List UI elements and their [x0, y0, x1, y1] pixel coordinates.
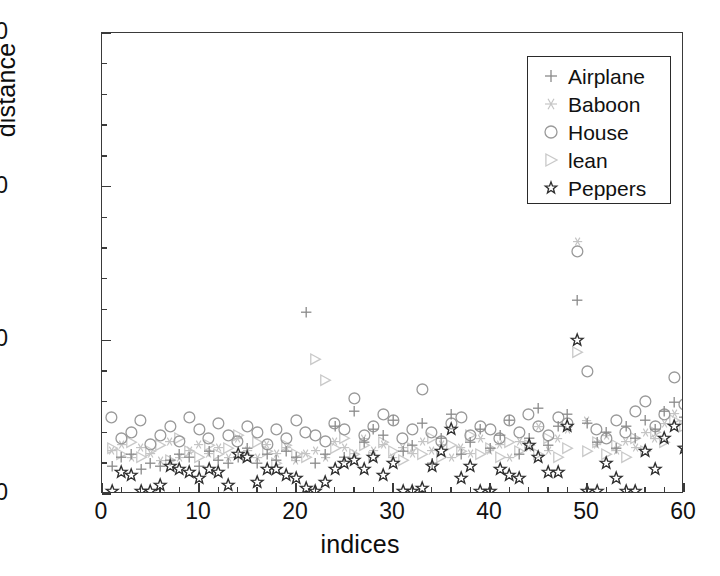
data-point	[569, 332, 585, 348]
data-point	[550, 464, 566, 480]
axis-tick	[102, 94, 107, 95]
axis-tick	[102, 278, 107, 279]
axis-tick	[102, 155, 107, 156]
axis-tick	[547, 487, 548, 492]
legend-box: AirplaneBaboonHouseleanPeppers	[527, 56, 671, 204]
star-marker-icon	[534, 175, 568, 201]
data-point	[637, 443, 653, 459]
data-point	[627, 483, 643, 492]
axis-tick	[664, 487, 665, 492]
axis-tick	[334, 487, 335, 492]
axis-tick	[102, 432, 107, 433]
data-point	[123, 467, 139, 483]
plus-marker-icon	[534, 63, 568, 89]
axis-tick	[489, 483, 491, 492]
legend-item-airplane[interactable]: Airplane	[528, 62, 670, 90]
legend-item-baboon[interactable]: Baboon	[528, 90, 670, 118]
axis-tick	[431, 487, 432, 492]
data-point	[433, 443, 449, 459]
axis-tick	[276, 487, 277, 492]
data-point	[220, 477, 236, 492]
x-tick-label: 60	[623, 500, 720, 523]
circle-marker-icon	[534, 119, 568, 145]
legend-item-label: Baboon	[568, 94, 640, 115]
axis-tick	[295, 483, 297, 492]
axis-tick	[121, 487, 122, 492]
axis-tick	[140, 487, 141, 492]
axis-tick	[353, 487, 354, 492]
legend-item-label: Peppers	[568, 178, 646, 199]
axis-tick	[101, 483, 103, 492]
axis-tick	[625, 487, 626, 492]
x-axis-title: indices	[0, 530, 720, 559]
data-point	[666, 418, 682, 434]
axis-tick	[102, 309, 107, 310]
legend-item-label: Airplane	[568, 66, 645, 87]
axis-tick	[315, 487, 316, 492]
data-point	[530, 449, 546, 465]
triangle-right-marker-icon	[534, 147, 568, 173]
y-tick-label: 0	[0, 481, 8, 504]
axis-tick	[102, 124, 107, 125]
data-point	[559, 418, 575, 434]
y-tick-label: 100	[0, 174, 8, 197]
data-point	[443, 421, 459, 437]
data-point	[598, 455, 614, 471]
data-point	[385, 455, 401, 471]
axis-tick	[256, 487, 257, 492]
scatter-plot-figure: distance indices 0501001500102030405060 …	[0, 0, 720, 576]
axis-tick	[470, 487, 471, 492]
axis-tick	[237, 487, 238, 492]
data-point	[365, 449, 381, 465]
legend-item-house[interactable]: House	[528, 118, 670, 146]
axis-tick	[102, 462, 107, 463]
axis-tick	[528, 487, 529, 492]
axis-tick	[159, 487, 160, 492]
data-point	[589, 483, 605, 492]
axis-tick	[179, 487, 180, 492]
axis-tick	[102, 340, 111, 342]
legend-item-label: House	[568, 122, 629, 143]
axis-tick	[644, 487, 645, 492]
axis-tick	[586, 483, 588, 492]
axis-tick	[567, 487, 568, 492]
axis-tick	[392, 483, 394, 492]
y-tick-label: 50	[0, 327, 8, 350]
axis-tick	[102, 63, 107, 64]
data-point	[647, 461, 663, 477]
data-point	[239, 449, 255, 465]
y-tick-label: 150	[0, 20, 8, 43]
legend-item-label: lean	[568, 150, 608, 171]
axis-tick	[198, 483, 200, 492]
axis-tick	[102, 401, 107, 402]
data-point	[424, 458, 440, 474]
asterisk-marker-icon	[534, 91, 568, 117]
axis-tick	[102, 32, 111, 34]
axis-tick	[683, 483, 685, 492]
axis-tick	[373, 487, 374, 492]
legend-item-lean[interactable]: lean	[528, 146, 670, 174]
data-point	[511, 470, 527, 486]
axis-tick	[102, 493, 111, 495]
axis-tick	[218, 487, 219, 492]
axis-tick	[509, 487, 510, 492]
axis-tick	[450, 487, 451, 492]
axis-tick	[102, 247, 107, 248]
axis-tick	[412, 487, 413, 492]
data-point	[414, 480, 430, 492]
legend-item-peppers[interactable]: Peppers	[528, 174, 670, 202]
data-point	[676, 440, 682, 456]
axis-tick	[102, 186, 111, 188]
data-point	[462, 458, 478, 474]
axis-tick	[102, 370, 107, 371]
axis-tick	[606, 487, 607, 492]
axis-tick	[102, 217, 107, 218]
data-point	[104, 483, 120, 492]
